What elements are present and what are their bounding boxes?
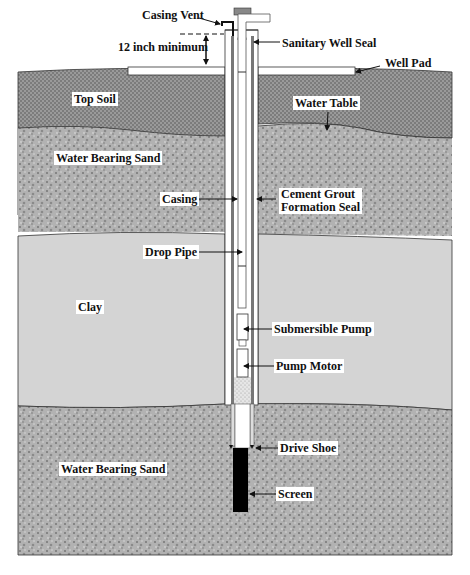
label-sanitary-well-seal: Sanitary Well Seal xyxy=(280,36,378,50)
label-water-table: Water Table xyxy=(293,96,360,110)
label-well-pad: Well Pad xyxy=(383,56,433,70)
label-cement-grout-line1: Cement Grout xyxy=(281,187,355,201)
label-drive-shoe: Drive Shoe xyxy=(278,441,338,455)
label-cement-grout: Cement Grout Formation Seal xyxy=(279,188,362,214)
well-pad xyxy=(128,67,225,75)
label-screen: Screen xyxy=(276,487,314,501)
label-cement-grout-line2: Formation Seal xyxy=(281,200,360,214)
label-submersible-pump: Submersible Pump xyxy=(272,322,374,336)
pump-motor xyxy=(237,349,248,377)
drop-pipe xyxy=(238,38,246,308)
label-water-bearing-sand-lower: Water Bearing Sand xyxy=(59,462,167,476)
label-water-bearing-sand-upper: Water Bearing Sand xyxy=(54,151,162,165)
label-drop-pipe: Drop Pipe xyxy=(143,245,199,259)
label-top-soil: Top Soil xyxy=(72,92,118,106)
submersible-pump xyxy=(237,314,248,340)
well-diagram xyxy=(0,0,470,575)
label-casing: Casing xyxy=(160,192,199,206)
label-12-inch-minimum: 12 inch minimum xyxy=(116,40,210,54)
label-casing-vent: Casing Vent xyxy=(140,8,206,22)
screen xyxy=(233,448,248,512)
label-pump-motor: Pump Motor xyxy=(274,359,344,373)
label-clay: Clay xyxy=(76,300,104,314)
